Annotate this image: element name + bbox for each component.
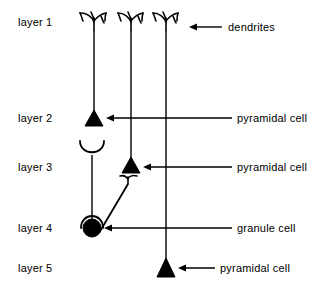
callout-label-pyramidal-cell-layer-3: pyramidal cell <box>237 161 307 173</box>
layer-label-4: layer 4 <box>18 222 52 234</box>
pyramidal-soma-1 <box>85 110 103 126</box>
granule-dendrite-tuft <box>80 141 104 152</box>
arrow-granule-4 <box>104 225 232 232</box>
dendrite-tuft-2 <box>118 12 143 30</box>
callout-arrows <box>104 24 232 272</box>
arrow-pyramidal-5 <box>178 265 215 272</box>
pyramidal-cell-1 <box>80 12 106 126</box>
pyramidal-soma-2 <box>122 157 140 173</box>
pyramidal-soma-3 <box>157 258 175 277</box>
arrow-dendrites <box>189 24 222 31</box>
layer-label-1: layer 1 <box>18 16 52 28</box>
arrow-pyramidal-3 <box>143 164 232 171</box>
layer-label-3: layer 3 <box>18 161 52 173</box>
arrow-pyramidal-2 <box>106 115 232 122</box>
callout-label-pyramidal-cell-layer-2: pyramidal cell <box>237 112 307 124</box>
cortical-layers-diagram: layer 1 layer 2 layer 3 layer 4 layer 5 … <box>0 0 324 293</box>
dendrite-tuft-1 <box>80 12 106 30</box>
granule-cell-1 <box>80 141 137 237</box>
pyramidal-cell-3 <box>153 12 178 277</box>
granule-axon-terminal <box>120 175 137 184</box>
layer-label-5: layer 5 <box>18 262 52 274</box>
pyramidal-cell-2 <box>118 12 143 173</box>
dendrite-tuft-3 <box>153 12 178 30</box>
callout-label-dendrites: dendrites <box>228 21 275 33</box>
diagram-canvas <box>0 0 324 293</box>
granule-axon <box>99 184 128 233</box>
callout-label-pyramidal-cell-layer-5: pyramidal cell <box>220 262 290 274</box>
callout-label-granule-cell-layer-4: granule cell <box>237 222 296 234</box>
layer-label-2: layer 2 <box>18 112 52 124</box>
granule-soma <box>83 219 101 237</box>
